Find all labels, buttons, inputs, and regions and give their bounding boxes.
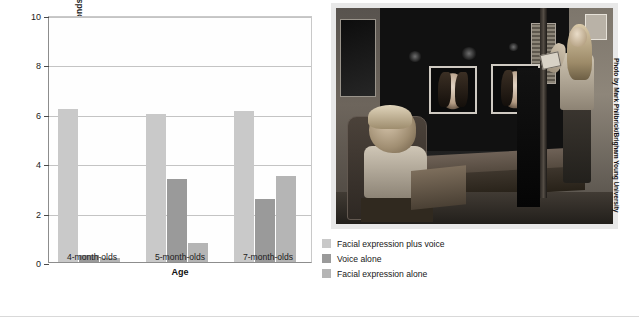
photo-researcher-head [569, 27, 587, 46]
y-tick-label: 2 [36, 210, 41, 219]
legend-label: Facial expression plus voice [337, 239, 444, 249]
bar-group [234, 17, 296, 262]
figure-container: Increase in looking time (seconds) 02468… [0, 0, 639, 327]
plot-area: 0246810 [48, 16, 312, 263]
x-tick-label: 7-month-olds [243, 252, 293, 262]
photo-researcher-legs [563, 105, 591, 183]
bar-chart: Increase in looking time (seconds) 02468… [0, 0, 330, 327]
bar [234, 111, 254, 262]
legend-color-swatch [322, 254, 331, 263]
research-photo [336, 8, 613, 224]
legend-item: Facial expression plus voice [322, 236, 444, 251]
y-tick-label: 8 [36, 62, 41, 71]
photo-infant-hair [368, 105, 412, 129]
legend-color-swatch [322, 269, 331, 278]
bar [276, 176, 296, 262]
y-tick-mark [44, 165, 49, 166]
x-tick-label: 5-month-olds [155, 252, 205, 262]
photo-dark-silhouette [517, 68, 539, 206]
legend-item: Facial expression alone [322, 266, 444, 281]
y-tick-mark [44, 66, 49, 67]
photo-light-glare [408, 51, 422, 62]
photo-face-hair [501, 70, 513, 107]
bar-group [58, 17, 120, 262]
x-tick-label: 4-month-olds [67, 252, 117, 262]
y-tick-label: 0 [36, 260, 41, 269]
y-tick-label: 10 [31, 13, 41, 22]
y-tick-label: 4 [36, 161, 41, 170]
photo-credit: Photo by Mark Philbrick/Brigham Young Un… [610, 58, 622, 224]
y-tick-mark [44, 264, 49, 265]
chart-legend: Facial expression plus voiceVoice aloneF… [322, 236, 444, 281]
research-photo-panel [331, 3, 618, 229]
y-tick-mark [44, 215, 49, 216]
photo-light-glare [508, 43, 519, 52]
y-tick-mark [44, 17, 49, 18]
bar [167, 179, 187, 262]
legend-label: Facial expression alone [337, 269, 427, 279]
photo-highchair-tray [411, 165, 466, 210]
y-tick-label: 6 [36, 111, 41, 120]
bar-group [146, 17, 208, 262]
page-divider [0, 316, 639, 317]
legend-label: Voice alone [337, 254, 381, 264]
photo-monitor-left [429, 66, 477, 114]
photo-face-hair [438, 72, 450, 107]
bar [146, 114, 166, 262]
bar [58, 109, 78, 262]
photo-light-glare [461, 47, 478, 60]
photo-support-pole [540, 8, 546, 198]
x-axis-label: Age [48, 267, 312, 277]
photo-window [340, 19, 376, 97]
y-tick-mark [44, 116, 49, 117]
legend-color-swatch [322, 239, 331, 248]
legend-item: Voice alone [322, 251, 444, 266]
photo-face-hair [455, 72, 467, 107]
